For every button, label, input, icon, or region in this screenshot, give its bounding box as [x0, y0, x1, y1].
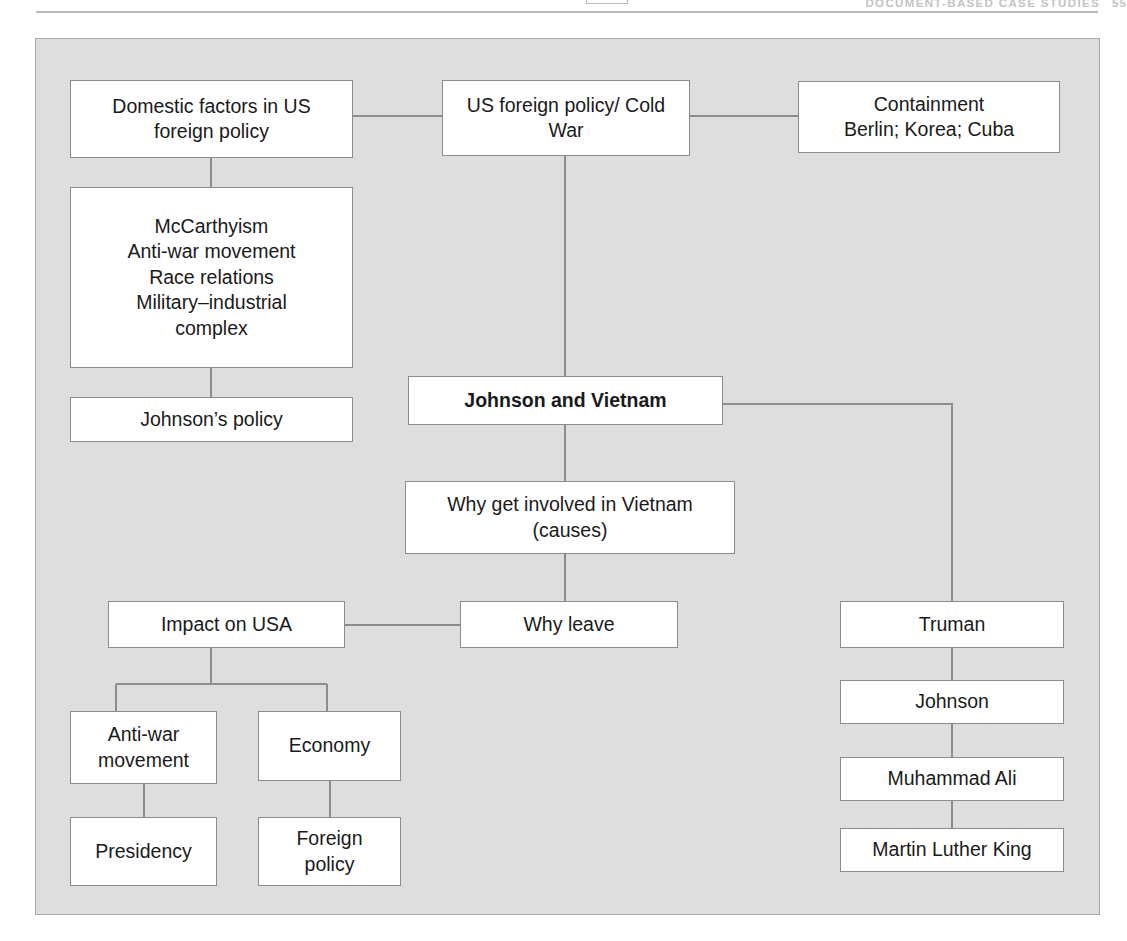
node-economy[interactable]: Economy: [258, 711, 401, 781]
node-why-leave[interactable]: Why leave: [460, 601, 678, 648]
page-header: DOCUMENT-BASED CASE STUDIES 55: [0, 0, 1127, 24]
node-johnson-label: Johnson: [915, 689, 989, 714]
node-muhammad-ali-label: Muhammad Ali: [888, 766, 1017, 791]
node-containment-label: Containment Berlin; Korea; Cuba: [844, 92, 1014, 143]
node-us-foreign-policy[interactable]: US foreign policy/ Cold War: [442, 80, 690, 156]
node-johnson-and-vietnam-label: Johnson and Vietnam: [464, 388, 666, 413]
node-johnson[interactable]: Johnson: [840, 680, 1064, 724]
node-containment[interactable]: Containment Berlin; Korea; Cuba: [798, 81, 1060, 153]
node-truman-label: Truman: [919, 612, 985, 637]
header-rule: [36, 11, 1098, 13]
node-domestic-issues-label: McCarthyism Anti-war movement Race relat…: [128, 214, 296, 341]
node-why-leave-label: Why leave: [523, 612, 614, 637]
node-martin-luther-king-label: Martin Luther King: [872, 837, 1031, 862]
node-impact-on-usa[interactable]: Impact on USA: [108, 601, 345, 648]
node-martin-luther-king[interactable]: Martin Luther King: [840, 828, 1064, 872]
node-truman[interactable]: Truman: [840, 601, 1064, 648]
node-foreign-policy-label: Foreign policy: [296, 826, 362, 877]
node-why-get-involved[interactable]: Why get involved in Vietnam (causes): [405, 481, 735, 554]
node-anti-war-movement-label: Anti-war movement: [98, 722, 189, 773]
page-number: 55: [1112, 0, 1127, 9]
node-domestic-factors-label: Domestic factors in US foreign policy: [112, 94, 310, 145]
node-us-foreign-policy-label: US foreign policy/ Cold War: [467, 93, 665, 144]
node-presidency[interactable]: Presidency: [70, 817, 217, 886]
node-johnsons-policy[interactable]: Johnson’s policy: [70, 397, 353, 442]
node-johnson-and-vietnam[interactable]: Johnson and Vietnam: [408, 376, 723, 425]
node-johnsons-policy-label: Johnson’s policy: [140, 407, 283, 432]
running-head-title: DOCUMENT-BASED CASE STUDIES: [865, 0, 1100, 9]
node-why-get-involved-label: Why get involved in Vietnam (causes): [447, 492, 693, 543]
node-foreign-policy[interactable]: Foreign policy: [258, 817, 401, 886]
node-domestic-factors[interactable]: Domestic factors in US foreign policy: [70, 80, 353, 158]
node-economy-label: Economy: [289, 733, 370, 758]
node-domestic-issues[interactable]: McCarthyism Anti-war movement Race relat…: [70, 187, 353, 368]
node-presidency-label: Presidency: [95, 839, 191, 864]
node-muhammad-ali[interactable]: Muhammad Ali: [840, 757, 1064, 801]
node-impact-on-usa-label: Impact on USA: [161, 612, 292, 637]
header-tab-marker: [586, 0, 628, 4]
node-anti-war-movement[interactable]: Anti-war movement: [70, 711, 217, 784]
